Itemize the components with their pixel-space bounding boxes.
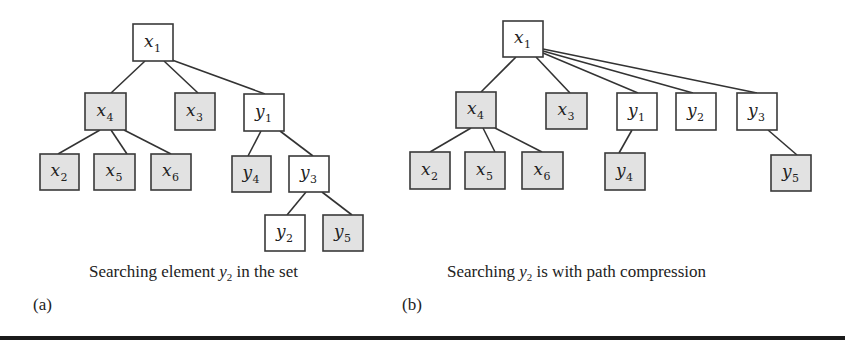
edge-b-y1-b-y4 bbox=[619, 130, 632, 153]
node-label: y bbox=[627, 100, 638, 120]
node-subscript: 1 bbox=[524, 38, 531, 51]
caption-a-before: Searching element bbox=[89, 262, 219, 281]
bottom-rule bbox=[0, 336, 845, 340]
edge-a-y1-a-y3 bbox=[280, 131, 313, 156]
node-label: x bbox=[186, 100, 196, 120]
node-label: x bbox=[144, 31, 154, 51]
tree-node-b-x2: x2 bbox=[410, 152, 450, 189]
node-subscript: 4 bbox=[477, 109, 484, 122]
tree-node-a-x3: x3 bbox=[175, 93, 215, 130]
node-label: x bbox=[51, 160, 61, 180]
caption-b-before: Searching bbox=[447, 262, 519, 281]
node-label: x bbox=[534, 159, 544, 179]
node-label: x bbox=[106, 160, 116, 180]
edge-a-y1-a-y4 bbox=[248, 131, 261, 156]
node-subscript: 2 bbox=[61, 171, 68, 184]
node-label: y bbox=[275, 221, 286, 241]
tree-node-a-x4: x4 bbox=[85, 93, 126, 130]
caption-a-var: y bbox=[219, 262, 227, 281]
node-label: x bbox=[558, 99, 568, 119]
node-subscript: 6 bbox=[172, 171, 179, 184]
tree-node-b-y2: y2 bbox=[676, 93, 716, 130]
node-subscript: 3 bbox=[568, 110, 575, 123]
edge-a-x4-a-x6 bbox=[124, 130, 171, 154]
node-subscript: 6 bbox=[544, 170, 551, 183]
node-label: y bbox=[615, 160, 626, 180]
node-label: x bbox=[421, 159, 431, 179]
caption-b-after: is with path compression bbox=[532, 262, 706, 281]
edge-a-y3-a-y5 bbox=[322, 192, 352, 215]
node-label: x bbox=[162, 160, 172, 180]
panel-label-b: (b) bbox=[402, 295, 422, 315]
caption-a-after: in the set bbox=[232, 262, 298, 281]
node-subscript: 2 bbox=[697, 111, 704, 124]
node-subscript: 5 bbox=[486, 170, 493, 183]
tree-node-a-y2: y2 bbox=[265, 215, 305, 251]
node-subscript: 5 bbox=[116, 171, 123, 184]
tree-node-b-y5: y5 bbox=[771, 155, 811, 191]
edge-b-x1-b-y2 bbox=[543, 51, 693, 93]
panel-label-a: (a) bbox=[33, 295, 52, 315]
node-label: x bbox=[97, 100, 107, 120]
caption-b: Searching y2 is with path compression bbox=[447, 262, 706, 283]
union-find-diagram: x1x4x3y1x2x5x6y4y3y2y5x1x4x3y1y2y3x2x5x6… bbox=[0, 0, 845, 351]
tree-node-b-x6: x6 bbox=[522, 152, 563, 189]
node-label: y bbox=[242, 162, 253, 182]
node-label: y bbox=[299, 162, 310, 182]
node-label: x bbox=[476, 159, 486, 179]
tree-node-a-y3: y3 bbox=[289, 156, 329, 192]
node-subscript: 5 bbox=[792, 172, 799, 185]
tree-node-a-y5: y5 bbox=[323, 215, 363, 251]
edge-b-x4-b-x5 bbox=[483, 128, 495, 152]
edge-b-y3-b-y5 bbox=[768, 130, 797, 155]
tree-node-b-x4: x4 bbox=[456, 92, 496, 128]
edge-b-x4-b-x2 bbox=[430, 128, 471, 152]
tree-node-a-x2: x2 bbox=[40, 154, 79, 190]
tree-node-b-y3: y3 bbox=[737, 93, 777, 130]
node-label: y bbox=[781, 161, 792, 181]
nodes-layer: x1x4x3y1x2x5x6y4y3y2y5x1x4x3y1y2y3x2x5x6… bbox=[40, 21, 811, 251]
edge-a-x1-a-y1 bbox=[172, 60, 265, 94]
node-subscript: 1 bbox=[638, 111, 645, 124]
tree-node-a-x5: x5 bbox=[94, 154, 135, 190]
edge-a-x4-a-x5 bbox=[111, 130, 127, 154]
tree-node-b-x5: x5 bbox=[465, 152, 505, 189]
node-subscript: 2 bbox=[431, 170, 438, 183]
node-subscript: 5 bbox=[344, 232, 351, 245]
tree-node-b-y1: y1 bbox=[617, 93, 657, 130]
node-subscript: 3 bbox=[758, 111, 765, 124]
node-label: x bbox=[467, 98, 477, 118]
node-subscript: 1 bbox=[265, 112, 272, 125]
edge-a-x1-a-x3 bbox=[164, 61, 198, 93]
node-subscript: 4 bbox=[107, 111, 114, 124]
tree-node-a-y4: y4 bbox=[232, 156, 271, 192]
node-subscript: 3 bbox=[310, 173, 317, 186]
edge-b-x1-b-y3 bbox=[543, 49, 757, 93]
node-subscript: 3 bbox=[196, 111, 203, 124]
tree-node-b-x1: x1 bbox=[503, 21, 543, 57]
node-subscript: 4 bbox=[253, 173, 260, 186]
node-label: y bbox=[254, 101, 265, 121]
tree-node-a-y1: y1 bbox=[244, 94, 284, 131]
caption-b-var: y bbox=[519, 262, 527, 281]
tree-node-b-x3: x3 bbox=[546, 93, 587, 129]
node-subscript: 1 bbox=[154, 42, 161, 55]
node-label: y bbox=[686, 100, 697, 120]
node-label: x bbox=[514, 27, 524, 47]
edge-b-x1-b-x4 bbox=[481, 57, 516, 92]
edge-a-x1-a-x4 bbox=[111, 61, 145, 93]
edge-b-x4-b-x6 bbox=[495, 128, 542, 152]
tree-node-b-y4: y4 bbox=[605, 153, 645, 190]
node-subscript: 4 bbox=[626, 171, 633, 184]
tree-node-a-x6: x6 bbox=[151, 154, 191, 190]
node-subscript: 2 bbox=[286, 232, 293, 245]
edge-a-y3-a-y2 bbox=[287, 192, 306, 215]
caption-a: Searching element y2 in the set bbox=[89, 262, 298, 283]
edge-a-x4-a-x2 bbox=[58, 130, 100, 154]
node-label: y bbox=[747, 100, 758, 120]
tree-node-a-x1: x1 bbox=[133, 24, 173, 61]
node-label: y bbox=[333, 221, 344, 241]
